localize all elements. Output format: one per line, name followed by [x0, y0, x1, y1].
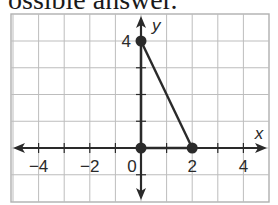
y-axis-label: y — [151, 16, 162, 35]
x-tick-label: −4 — [29, 157, 48, 176]
x-tick-label: 0 — [127, 157, 136, 176]
data-point — [187, 143, 198, 154]
x-tick-label: −2 — [80, 157, 99, 176]
coordinate-plane: −4−20244xy — [0, 0, 278, 205]
x-tick-label: 2 — [187, 157, 196, 176]
y-tick-label: 4 — [122, 32, 131, 51]
data-point — [136, 143, 147, 154]
x-axis-label: x — [254, 124, 264, 143]
data-point — [136, 36, 147, 47]
x-tick-label: 4 — [239, 157, 248, 176]
